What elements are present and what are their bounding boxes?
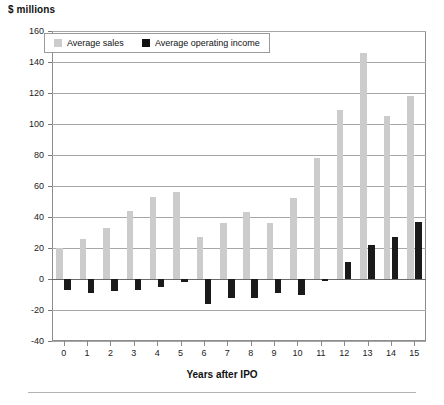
legend-item-average-operating-income: Average operating income	[142, 38, 260, 48]
y-tick-label: 100	[29, 119, 44, 129]
bar-income-year-14	[392, 237, 399, 279]
bar-sales-year-3	[127, 211, 134, 279]
bar-income-year-15	[415, 222, 422, 279]
y-tick-label: 0	[39, 274, 44, 284]
y-tick-label: -20	[31, 305, 44, 315]
bar-income-year-2	[111, 279, 118, 291]
y-tick-mark	[48, 124, 52, 125]
x-tick-mark	[321, 341, 322, 346]
x-tick-mark	[227, 341, 228, 346]
y-tick-mark	[48, 217, 52, 218]
y-axis-tick-labels: -40-20020406080100120140160	[0, 31, 48, 341]
bar-income-year-1	[88, 279, 95, 293]
bar-sales-year-6	[197, 237, 204, 279]
bar-income-year-12	[345, 262, 352, 279]
bar-income-year-13	[368, 245, 375, 279]
x-tick-mark	[297, 341, 298, 346]
bar-sales-year-15	[407, 96, 414, 279]
legend-swatch-icon-income	[142, 39, 150, 47]
bar-income-year-9	[275, 279, 282, 293]
chart-legend: Average sales Average operating income	[44, 33, 270, 53]
x-tick-mark	[87, 341, 88, 346]
bar-sales-year-0	[56, 248, 63, 279]
x-tick-label: 15	[409, 348, 419, 358]
bar-income-year-0	[64, 279, 71, 290]
gridline	[52, 31, 426, 32]
x-tick-label: 7	[225, 348, 230, 358]
y-tick-mark	[48, 93, 52, 94]
legend-label-income: Average operating income	[155, 38, 260, 48]
gridline	[52, 124, 426, 125]
y-tick-label: 140	[29, 57, 44, 67]
x-tick-label: 11	[316, 348, 325, 358]
y-tick-mark	[48, 186, 52, 187]
legend-swatch-icon-sales	[54, 39, 62, 47]
bar-income-year-7	[228, 279, 235, 298]
y-tick-mark	[48, 31, 52, 32]
y-tick-mark	[48, 155, 52, 156]
bar-sales-year-2	[103, 228, 110, 279]
x-tick-mark	[274, 341, 275, 346]
x-tick-label: 12	[339, 348, 349, 358]
x-tick-label: 4	[155, 348, 160, 358]
y-tick-label: 40	[34, 212, 44, 222]
bar-income-year-11	[322, 279, 329, 281]
gridline	[52, 93, 426, 94]
bar-sales-year-1	[80, 239, 87, 279]
bar-sales-year-14	[384, 116, 391, 279]
y-tick-mark	[48, 310, 52, 311]
bar-sales-year-10	[290, 198, 297, 279]
x-tick-label: 10	[292, 348, 302, 358]
bar-sales-year-12	[337, 110, 344, 279]
x-tick-mark	[251, 341, 252, 346]
y-tick-mark	[48, 279, 52, 280]
x-tick-label: 9	[272, 348, 277, 358]
footer-divider	[28, 392, 416, 393]
y-tick-mark	[48, 248, 52, 249]
x-tick-mark	[204, 341, 205, 346]
x-tick-mark	[391, 341, 392, 346]
bar-sales-year-13	[360, 53, 367, 279]
gridline	[52, 155, 426, 156]
legend-label-sales: Average sales	[67, 38, 124, 48]
bar-sales-year-8	[243, 212, 250, 279]
x-tick-mark	[134, 341, 135, 346]
bar-income-year-3	[135, 279, 142, 290]
bar-sales-year-5	[173, 192, 180, 279]
y-axis-title: $ millions	[8, 4, 55, 15]
y-tick-label: -40	[31, 336, 44, 346]
bar-sales-year-11	[314, 158, 321, 279]
x-tick-label: 6	[201, 348, 206, 358]
y-tick-label: 80	[34, 150, 44, 160]
x-axis-title: Years after IPO	[0, 369, 444, 380]
bar-income-year-8	[251, 279, 258, 298]
x-tick-mark	[64, 341, 65, 346]
bar-sales-year-9	[267, 223, 274, 279]
gridline	[52, 310, 426, 311]
x-tick-label: 1	[85, 348, 90, 358]
x-tick-label: 8	[248, 348, 253, 358]
x-tick-mark	[368, 341, 369, 346]
x-tick-mark	[110, 341, 111, 346]
y-tick-label: 20	[34, 243, 44, 253]
bar-income-year-4	[158, 279, 165, 287]
x-tick-label: 0	[61, 348, 66, 358]
x-tick-label: 2	[108, 348, 113, 358]
x-tick-label: 3	[131, 348, 136, 358]
x-tick-mark	[181, 341, 182, 346]
x-tick-mark	[157, 341, 158, 346]
y-tick-label: 160	[29, 26, 44, 36]
bar-sales-year-4	[150, 197, 157, 279]
gridline	[52, 217, 426, 218]
x-tick-mark	[344, 341, 345, 346]
chart-container: $ millions -40-20020406080100120140160 0…	[0, 0, 444, 405]
bar-sales-year-7	[220, 223, 227, 279]
bar-income-year-5	[181, 279, 188, 282]
x-tick-label: 5	[178, 348, 183, 358]
bar-income-year-10	[298, 279, 305, 295]
plot-area	[52, 31, 426, 341]
x-tick-label: 14	[386, 348, 396, 358]
y-tick-mark	[48, 62, 52, 63]
gridline	[52, 62, 426, 63]
zero-line	[52, 279, 426, 280]
